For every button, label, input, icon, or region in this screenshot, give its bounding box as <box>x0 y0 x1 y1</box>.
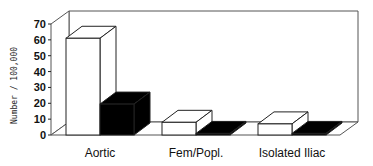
bar-black <box>196 133 230 135</box>
y-tick-label: 20 <box>34 97 46 109</box>
y-tick-label: 10 <box>34 113 46 125</box>
y-axis-label: Number / 100,000 <box>10 47 19 124</box>
bar-black <box>100 104 134 135</box>
x-category-label: Aortic <box>85 146 116 160</box>
bar-white <box>258 124 292 135</box>
bar-chart: 010203040506070Number / 100,000AorticFem… <box>0 0 373 166</box>
y-tick-label: 60 <box>34 34 46 46</box>
y-tick-label: 30 <box>34 81 46 93</box>
x-category-label: Fem/Popl. <box>169 146 224 160</box>
bar-white <box>162 122 196 135</box>
y-tick-label: 40 <box>34 66 46 78</box>
y-tick-label: 0 <box>40 129 46 141</box>
x-category-label: Isolated Iliac <box>259 146 326 160</box>
y-tick-label: 50 <box>34 50 46 62</box>
bar-white <box>66 38 100 135</box>
bar-black <box>292 133 326 135</box>
y-tick-label: 70 <box>34 18 46 30</box>
